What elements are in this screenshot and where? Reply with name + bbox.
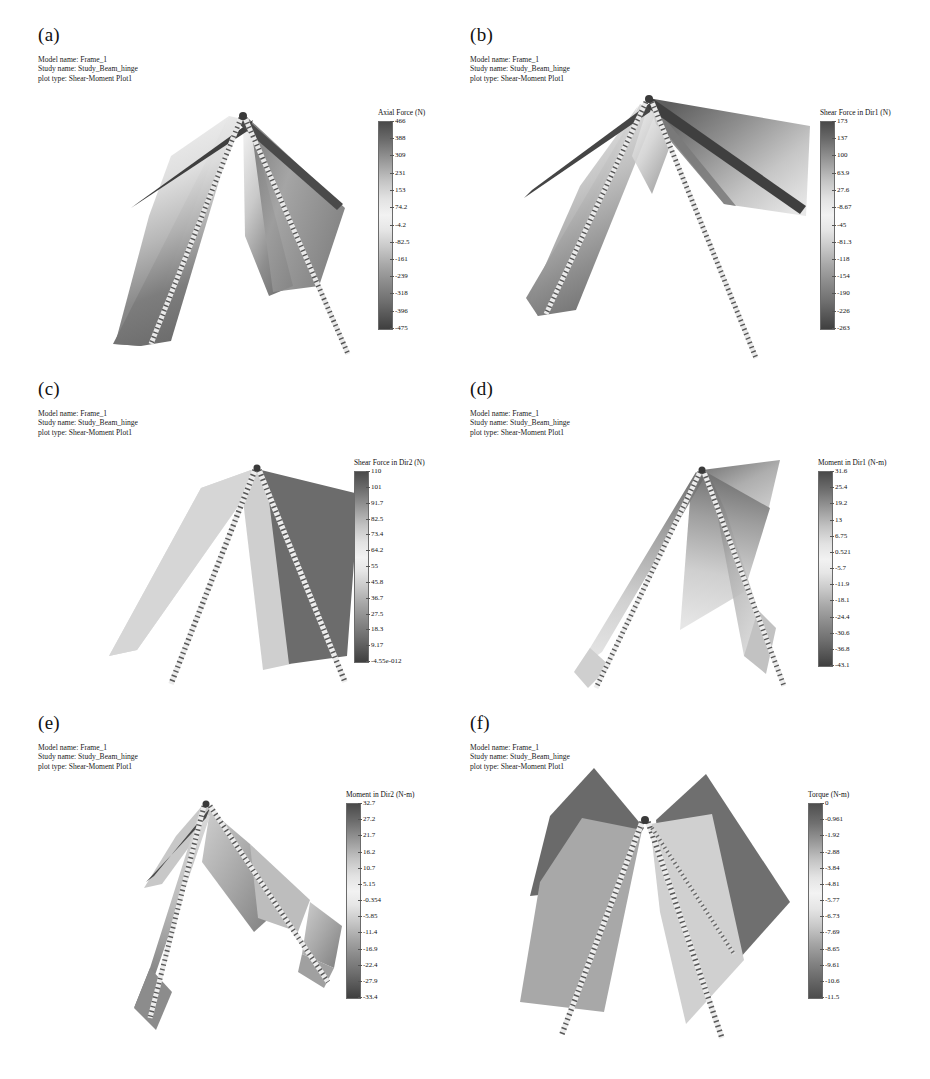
legend-tick: 27.6 (837, 186, 849, 194)
hinge-joint (254, 465, 261, 472)
legend-colorbar (354, 471, 369, 663)
legend-tick: 137 (837, 134, 848, 142)
legend-tick: 82.5 (371, 515, 383, 523)
legend-tick: 73.4 (371, 530, 383, 538)
panel-b-svg (510, 86, 840, 371)
panel-a-svg (93, 96, 383, 366)
legend-tick: -18.1 (835, 596, 850, 604)
legend-tick: -0.354 (363, 896, 381, 904)
legend-title: Axial Force (N) (378, 108, 425, 117)
legend-tick: -45 (837, 221, 846, 229)
legend-tick: 173 (837, 117, 848, 125)
legend-tick: -8.67 (837, 203, 852, 211)
legend-tick-list: 173 137 100 63.9 27.6 -8.67 -45 -81.3 -1… (837, 121, 883, 328)
legend-tick: -36.8 (835, 645, 850, 653)
legend-tick: -396 (395, 307, 408, 315)
legend-tick: 309 (395, 151, 406, 159)
legend-tick: 16.2 (363, 848, 375, 856)
panel-a-legend: Axial Force (N) 466 388 309 231 153 74.2… (378, 108, 425, 328)
legend-tick: -5.77 (825, 896, 840, 904)
legend-title: Moment in Dir2 (N-m) (346, 790, 414, 799)
legend-tick: -11.9 (835, 580, 849, 588)
legend-tick: -154 (837, 272, 850, 280)
legend-tick: -226 (837, 307, 850, 315)
legend-tick: 63.9 (837, 169, 849, 177)
hinge-joint (641, 816, 649, 824)
legend-tick: 91.7 (371, 499, 383, 507)
legend-tick: 13 (835, 516, 842, 524)
meta-model-name: Model name: Frame_1 (38, 743, 463, 752)
panel-c-model-view[interactable] (73, 460, 373, 690)
legend-tick: 19.2 (835, 499, 847, 507)
legend-tick: -3.84 (825, 864, 840, 872)
meta-plot-type: plot type: Shear-Moment Plot1 (470, 74, 910, 83)
panel-a-label: (a) (38, 24, 463, 46)
legend-tick: -9.61 (825, 961, 840, 969)
legend-colorbar (378, 121, 393, 330)
legend-colorbar (820, 121, 835, 330)
legend-tick: -5.85 (363, 912, 378, 920)
legend-tick: -4.55e-012 (371, 657, 402, 665)
legend-tick: -239 (395, 272, 408, 280)
panel-a: (a) Model name: Frame_1 Study name: Stud… (38, 24, 463, 369)
meta-study-name: Study name: Study_Beam_hinge (470, 64, 910, 73)
panel-b-meta: Model name: Frame_1 Study name: Study_Be… (470, 55, 910, 83)
meta-study-name: Study name: Study_Beam_hinge (38, 752, 463, 761)
legend-tick: 31.6 (835, 467, 847, 475)
legend-tick-list: 0 -0.961 -1.92 -2.88 -3.84 -4.81 -5.77 -… (825, 803, 871, 997)
legend-tick: -5.7 (835, 564, 846, 572)
panel-f-model-view[interactable] (490, 762, 800, 1042)
legend-tick: -10.6 (825, 977, 840, 985)
legend-tick: 231 (395, 169, 406, 177)
beam-element-left (546, 102, 646, 314)
panel-d-label: (d) (470, 378, 910, 400)
legend-tick: -4.81 (825, 880, 840, 888)
legend-tick: -1.92 (825, 831, 840, 839)
legend-tick: -2.88 (825, 848, 840, 856)
legend-tick: 0 (825, 799, 829, 807)
panel-b: (b) Model name: Frame_1 Study name: Stud… (470, 24, 910, 369)
panel-d-meta: Model name: Frame_1 Study name: Study_Be… (470, 409, 910, 437)
legend-tick-list: 110 101 91.7 82.5 73.4 64.2 55 45.8 36.7… (371, 471, 417, 661)
legend-tick: -33.4 (363, 993, 378, 1001)
legend-tick: -190 (837, 289, 850, 297)
legend-tick: 110 (371, 467, 381, 475)
legend-tick: 0.521 (835, 548, 851, 556)
panel-d-model-view[interactable] (530, 460, 820, 695)
meta-plot-type: plot type: Shear-Moment Plot1 (470, 428, 910, 437)
meta-model-name: Model name: Frame_1 (470, 55, 910, 64)
legend-tick: -0.961 (825, 815, 843, 823)
legend-tick-list: 32.7 27.2 21.7 16.2 10.7 5.15 -0.354 -5.… (363, 803, 409, 997)
meta-study-name: Study name: Study_Beam_hinge (470, 418, 910, 427)
legend-title: Shear Force in Dir2 (N) (354, 458, 425, 467)
legend-tick: 25.4 (835, 483, 847, 491)
panel-c: (c) Model name: Frame_1 Study name: Stud… (38, 378, 463, 708)
legend-title: Torque (N-m) (808, 790, 849, 799)
legend-tick: 27.5 (371, 610, 383, 618)
panel-f-svg (490, 762, 800, 1042)
panel-f-label: (f) (470, 712, 910, 734)
legend-colorbar (808, 803, 823, 999)
legend-tick: 153 (395, 186, 406, 194)
panel-b-model-view[interactable] (510, 86, 840, 371)
panel-e-model-view[interactable] (98, 792, 388, 1042)
legend-tick: -16.9 (363, 945, 378, 953)
legend-tick: 27.2 (363, 815, 375, 823)
panel-a-model-view[interactable] (93, 96, 383, 366)
legend-tick: 45.8 (371, 578, 383, 586)
legend-colorbar (346, 803, 361, 999)
meta-study-name: Study name: Study_Beam_hinge (38, 64, 463, 73)
panel-c-label: (c) (38, 378, 463, 400)
panel-b-legend: Shear Force in Dir1 (N) 173 137 100 63.9… (820, 108, 891, 328)
meta-study-name: Study name: Study_Beam_hinge (470, 752, 910, 761)
legend-tick: -263 (837, 324, 850, 332)
meta-model-name: Model name: Frame_1 (38, 409, 463, 418)
legend-tick: -24.4 (835, 613, 850, 621)
hinge-joint (239, 112, 247, 120)
legend-tick: -81.3 (837, 238, 852, 246)
legend-tick: 74.2 (395, 203, 407, 211)
legend-tick: -22.4 (363, 961, 378, 969)
legend-tick: 9.17 (371, 641, 383, 649)
meta-model-name: Model name: Frame_1 (470, 409, 910, 418)
panel-d-legend: Moment in Dir1 (N-m) 31.6 25.4 19.2 13 6… (818, 458, 886, 665)
